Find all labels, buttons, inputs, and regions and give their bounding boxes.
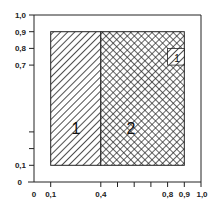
region-1-label: 1 [72,120,81,137]
x-axis-ticks [51,182,201,187]
x-tick-label: 0 [32,190,37,199]
region-2-label: 2 [127,120,136,137]
x-tick-label: 0,4 [95,190,107,199]
x-tick-label: 1,0 [196,190,208,199]
x-tick-label: 0,1 [45,190,57,199]
y-tick-label: 0,8 [15,44,27,53]
y-axis-ticks [29,15,34,165]
y-tick-label: 0,7 [15,61,27,70]
x-tick-label: 0,8 [162,190,174,199]
y-tick-label: 1,0 [15,11,27,20]
y-tick-label: 0,1 [15,161,27,170]
region-diagram: 1 2 1 1,0 0,9 0,8 0,7 0,1 0 0 0,1 0,4 0,… [0,0,220,213]
x-tick-label: 0,9 [179,190,191,199]
y-tick-label: 0 [18,178,23,187]
small-region-label: 1 [174,53,180,64]
region-1 [51,32,101,166]
y-tick-label: 0,9 [15,28,27,37]
